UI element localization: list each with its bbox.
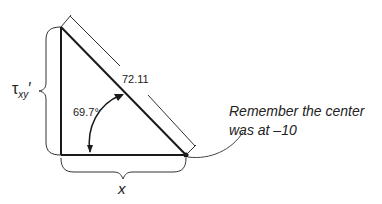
angle-arc [89,95,121,152]
tau-prime: ′ [28,80,31,97]
hypotenuse-label: 72.11 [122,73,149,85]
tau-subscript: xy [18,89,28,100]
arrowhead-down [87,145,93,153]
hypotenuse-dimension [61,15,196,155]
bottom-brace [61,158,186,179]
callout-line-1: Remember the center [229,102,364,121]
callout-line-2: was at –10 [229,121,364,140]
shear-stress-label: τxy′ [12,80,31,100]
left-brace [39,27,61,155]
right-triangle [61,27,186,155]
angle-label: 69.7° [73,106,99,118]
x-label: x [118,180,126,197]
callout-note: Remember the center was at –10 [229,102,364,140]
